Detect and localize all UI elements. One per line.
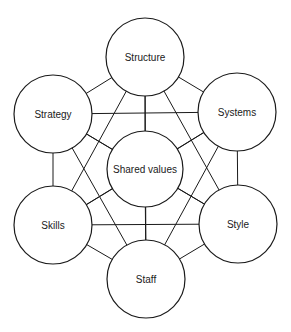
node-systems: Systems: [198, 73, 276, 151]
node-shared-values: Shared values: [107, 131, 183, 207]
node-skills: Skills: [14, 186, 92, 264]
node-label-structure: Structure: [125, 52, 166, 63]
node-label-style: Style: [227, 219, 250, 230]
seven-s-diagram: Structure Strategy Systems Shared values…: [0, 0, 291, 332]
node-staff: Staff: [107, 240, 185, 318]
node-label-staff: Staff: [136, 274, 157, 285]
node-style: Style: [199, 185, 277, 263]
node-label-skills: Skills: [41, 220, 64, 231]
node-label-shared-values: Shared values: [113, 164, 177, 175]
node-label-strategy: Strategy: [34, 109, 71, 120]
node-strategy: Strategy: [14, 75, 92, 153]
node-structure: Structure: [106, 18, 184, 96]
node-label-systems: Systems: [218, 107, 256, 118]
